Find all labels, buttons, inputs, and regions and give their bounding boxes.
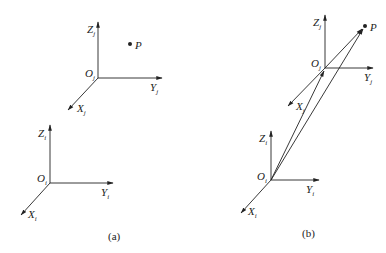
- vector-oi-p: [271, 29, 363, 180]
- x-label-i: Xi: [27, 208, 37, 223]
- vector-oj-p: [325, 29, 362, 68]
- y-label-i: Yi: [101, 186, 109, 201]
- frame-i-b: Zi Oi Yi Xi: [241, 131, 319, 220]
- origin-label-i: Oi: [257, 170, 267, 185]
- y-label-j: Yj: [150, 81, 158, 96]
- origin-label-j: Oj: [311, 57, 321, 72]
- frame-i-a: Zi Oi Yi Xi: [21, 125, 113, 223]
- point-p-b: [363, 24, 367, 28]
- y-label-j: Yj: [364, 71, 372, 86]
- vector-oi-oj: [271, 71, 324, 180]
- coordinate-frames-diagram: Zj Oj Yj Xj P Zi Oi Yi Xi (a) Zj Oj Yj: [0, 0, 386, 253]
- origin-label-i: Oi: [37, 172, 47, 187]
- frame-j-b: Zj Oj Yj Xj: [288, 15, 373, 115]
- x-label-j: Xj: [76, 102, 86, 117]
- panel-b: Zj Oj Yj Xj P Zi Oi Yi Xi (b): [241, 15, 377, 240]
- x-label-i: Xi: [247, 205, 257, 220]
- point-p-a: [128, 42, 132, 46]
- z-label-i: Zi: [259, 132, 267, 147]
- z-label-i: Zi: [38, 127, 46, 142]
- x-axis-i: [21, 183, 50, 215]
- panel-a: Zj Oj Yj Xj P Zi Oi Yi Xi (a): [21, 22, 162, 243]
- z-label-j: Zj: [87, 23, 95, 38]
- caption-b: (b): [302, 227, 315, 240]
- z-label-j: Zj: [313, 16, 321, 31]
- frame-j-a: Zj Oj Yj Xj: [68, 22, 162, 117]
- point-label-a: P: [134, 39, 142, 51]
- y-label-i: Yi: [306, 183, 314, 198]
- point-label-b: P: [369, 21, 377, 33]
- caption-a: (a): [108, 230, 121, 243]
- origin-label-j: Oj: [85, 67, 95, 82]
